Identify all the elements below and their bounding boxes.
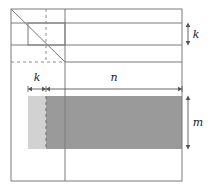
dimension-m-vertical: m <box>186 96 204 150</box>
dimension-n-horizontal: n <box>46 71 183 92</box>
arrowhead-down-m-vertical <box>186 145 191 150</box>
label-k-horizontal: k <box>34 71 41 84</box>
dimension-k-vertical: k <box>186 23 200 46</box>
dark-gray-block <box>46 96 182 149</box>
arrowhead-down-k-vertical <box>186 41 191 46</box>
label-k-vertical: k <box>193 28 200 41</box>
diagonal-line <box>11 9 65 62</box>
label-m-vertical: m <box>193 116 203 129</box>
light-gray-block <box>28 96 46 149</box>
arrowhead-up-k-vertical <box>186 23 191 28</box>
label-n-horizontal: n <box>110 71 117 84</box>
dimension-k-horizontal: k <box>28 71 47 92</box>
block-matrix-diagram: k k n m <box>0 0 216 191</box>
figure-container: k k n m <box>0 0 216 191</box>
arrowhead-up-m-vertical <box>186 96 191 101</box>
